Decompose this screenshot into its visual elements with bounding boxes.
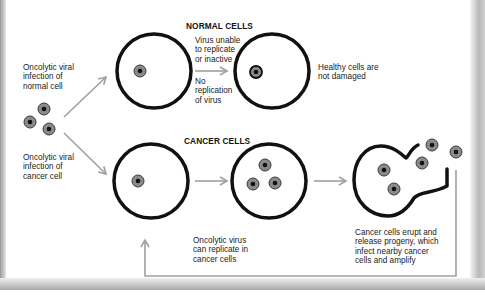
label-infection-cancer: Oncolytic viral infection of cancer cell (23, 153, 74, 181)
heading-cancer-cells: CANCER CELLS (184, 136, 250, 146)
cancer-cell-2 (232, 144, 306, 218)
diagram-frame: NORMAL CELLS CANCER CELLS Oncolytic vira… (0, 0, 485, 305)
label-infection-normal: Oncolytic viral infection of normal cell (23, 63, 74, 91)
heading-normal-cells: NORMAL CELLS (186, 21, 253, 31)
cancer-cell-1 (114, 144, 188, 218)
bursting-cancer-cell (354, 139, 462, 216)
virus-cluster (24, 103, 55, 135)
normal-cell-2 (235, 34, 309, 108)
label-virus-unable: Virus unable to replicate or inactive (195, 36, 240, 64)
normal-cell-1 (117, 34, 191, 108)
label-healthy-cells: Healthy cells are not damaged (318, 63, 379, 82)
label-can-replicate: Oncolytic virus can replicate in cancer … (193, 236, 248, 264)
label-no-replication: No replication of virus (195, 77, 232, 105)
label-cancer-erupt: Cancer cells erupt and release progeny, … (355, 228, 439, 266)
